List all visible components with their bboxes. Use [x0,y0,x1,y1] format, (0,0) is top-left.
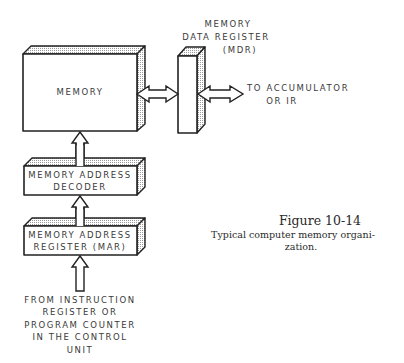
to-accumulator-line-1: TO ACCUMULATOR [246,83,349,93]
memory-block: MEMORY [23,46,145,131]
mdr-block-front [178,56,197,133]
from-control-label: FROM INSTRUCTION REGISTER OR PROGRAM COU… [24,295,135,355]
memory-label: MEMORY [57,87,104,97]
to-accumulator-label: TO ACCUMULATOR OR IR [246,83,349,106]
mdr-label-line-2: DATA REGISTER [182,32,270,42]
mdr-block [178,47,205,133]
mdr-label-line-1: MEMORY [205,19,252,29]
mdr-label-line-3: (MDR) [223,45,257,55]
from-control-line-4: IN THE CONTROL [32,332,127,342]
to-accumulator-line-2: OR IR [266,96,298,106]
decoder-to-memory-arrow-stem [76,145,84,166]
memory-organization-diagram: MEMORY MEMORY DATA REGISTER (MDR) TO ACC… [0,0,404,363]
decoder-label-line-1: MEMORY ADDRESS [28,170,131,180]
from-control-line-1: FROM INSTRUCTION [24,295,135,305]
caption-line-1: Typical computer memory organi- [211,229,375,240]
figure-number: Figure 10-14 [279,213,361,228]
mar-to-decoder-arrow-stem [76,209,84,226]
from-control-line-5: UNIT [67,345,94,355]
decoder-label-line-2: DECODER [53,182,107,192]
from-control-line-2: REGISTER OR [42,307,117,317]
control-to-mar-arrow [72,256,88,291]
caption-line-2: zation. [285,241,317,252]
memory-block-side [137,46,145,131]
mar-label-line-1: MEMORY ADDRESS [28,230,131,240]
from-control-line-3: PROGRAM COUNTER [24,320,135,330]
mar-label-line-2: REGISTER (MAR) [33,242,126,252]
memory-block-top [23,46,145,54]
figure-caption: Figure 10-14 Typical computer memory org… [211,213,375,252]
